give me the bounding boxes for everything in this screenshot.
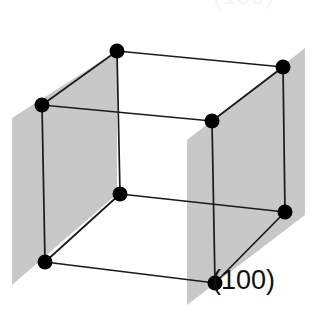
lattice-point-top-back-left <box>110 44 125 59</box>
miller-index-label: (100) <box>212 265 275 295</box>
lattice-point-top-front-right <box>205 114 220 129</box>
lattice-point-top-front-left <box>35 98 50 113</box>
unit-cell-svg: (100) (100) <box>0 0 323 322</box>
lattice-point-bottom-back-left <box>113 187 128 202</box>
crystallographic-plane-figure: (100) (100) <box>0 0 323 322</box>
lattice-point-top-back-right <box>276 60 291 75</box>
cropped-top-text: (100) <box>213 0 274 10</box>
lattice-point-bottom-front-left <box>38 255 53 270</box>
lattice-point-bottom-back-right <box>278 205 293 220</box>
